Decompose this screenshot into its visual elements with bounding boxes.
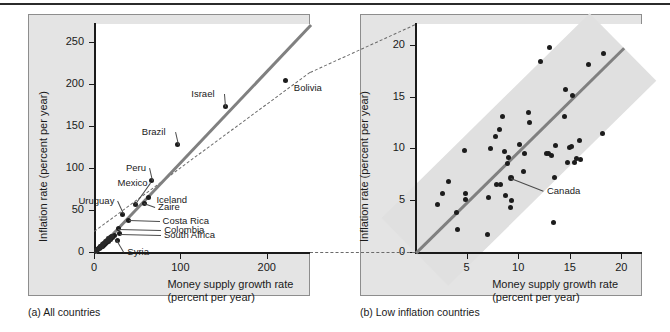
data-point xyxy=(486,195,491,200)
panel-b-x-axis-title: Money supply growth rate(percent per yea… xyxy=(492,278,618,304)
data-point xyxy=(577,138,582,143)
data-point xyxy=(553,143,558,148)
panel-a-y-axis xyxy=(94,23,96,253)
data-point xyxy=(517,142,522,147)
panel-a-y-tick-label: 200 xyxy=(54,77,84,89)
data-point-iceland xyxy=(146,195,151,200)
panel-a-y-tick-label: 250 xyxy=(54,35,84,47)
data-point-label: Canada xyxy=(547,185,580,196)
panel-a-x-tick xyxy=(94,254,95,259)
data-point-label: Uruguay xyxy=(79,195,115,206)
data-point xyxy=(454,210,459,215)
data-point-label: South Africa xyxy=(164,229,215,240)
panel-b-y-tick xyxy=(410,200,415,201)
panel-a-y-tick xyxy=(89,42,94,43)
panel-a-x-axis-title-line2: (percent per year) xyxy=(167,291,293,304)
figure-top-rule xyxy=(0,3,670,5)
panel-a-caption: (a) All countries xyxy=(28,306,100,318)
panel-a-y-tick-label: 0 xyxy=(54,245,84,257)
data-point-label: Brazil xyxy=(142,126,166,137)
data-point xyxy=(435,202,440,207)
data-point-label: Zaire xyxy=(158,201,180,212)
panel-b-y-tick xyxy=(410,45,415,46)
data-point xyxy=(455,227,460,232)
data-point xyxy=(485,232,490,237)
figure-root: (a) All countries (b) Low inflation coun… xyxy=(0,0,670,332)
panel-b-x-tick-label: 5 xyxy=(452,261,482,273)
panel-a-y-tick xyxy=(89,84,94,85)
data-point xyxy=(521,169,526,174)
data-point-label: Syria xyxy=(127,246,149,257)
panel-b-y-tick xyxy=(410,148,415,149)
data-point xyxy=(562,114,567,119)
panel-a-y-axis-title: Inflation rate (percent per year) xyxy=(37,91,50,242)
data-point xyxy=(586,62,591,67)
data-point xyxy=(563,87,568,92)
panel-a-y-tick-label: 150 xyxy=(54,119,84,131)
data-point xyxy=(527,120,532,125)
origin-cluster-point xyxy=(110,234,114,238)
data-point-label: Peru xyxy=(126,162,146,173)
panel-b-x-tick-label: 15 xyxy=(555,261,585,273)
panel-b-x-tick xyxy=(621,254,622,259)
data-point xyxy=(547,45,552,50)
panel-b-y-tick-label: 0 xyxy=(375,245,405,257)
panel-a-x-tick-label: 100 xyxy=(165,261,195,273)
panel-a-x-axis-title: Money supply growth rate(percent per yea… xyxy=(167,278,293,304)
panel-a-y-tick xyxy=(89,210,94,211)
connector-bottom-dashed xyxy=(310,252,415,253)
data-point-label: Bolivia xyxy=(294,82,322,93)
data-point-label: Israel xyxy=(191,88,214,99)
data-point xyxy=(500,114,505,119)
data-point xyxy=(462,148,467,153)
panel-a-y-tick-label: 100 xyxy=(54,161,84,173)
panel-b-x-axis-title-line1: Money supply growth rate xyxy=(492,278,618,291)
panel-b-x-tick-label: 20 xyxy=(606,261,636,273)
panel-b-y-tick-label: 15 xyxy=(375,90,405,102)
data-point xyxy=(549,153,554,158)
panel-a-x-axis-title-line1: Money supply growth rate xyxy=(167,278,293,291)
panel-a-x-tick xyxy=(180,254,181,259)
data-point xyxy=(488,146,493,151)
data-point xyxy=(552,175,557,180)
data-point-bolivia xyxy=(283,78,288,83)
panel-b-x-tick xyxy=(467,254,468,259)
data-point xyxy=(526,110,531,115)
data-point xyxy=(522,151,527,156)
panel-b-x-axis-title-line2: (percent per year) xyxy=(492,291,618,304)
data-point xyxy=(601,51,606,56)
data-point xyxy=(463,197,468,202)
data-point xyxy=(503,193,508,198)
panel-b-y-tick-label: 10 xyxy=(375,141,405,153)
data-point xyxy=(446,179,451,184)
data-point xyxy=(578,157,583,162)
panel-b-y-axis-title: Inflation rate (percent per year) xyxy=(358,91,371,242)
panel-b-y-tick xyxy=(410,97,415,98)
panel-a-x-tick-label: 0 xyxy=(79,261,109,273)
panel-b-x-tick xyxy=(570,254,571,259)
panel-a-x-tick-label: 200 xyxy=(252,261,282,273)
panel-b-y-axis xyxy=(415,23,417,253)
panel-b-caption: (b) Low inflation countries xyxy=(360,306,480,318)
panel-b-x-axis xyxy=(415,252,642,254)
panel-a-x-tick xyxy=(267,254,268,259)
panel-b-x-tick xyxy=(518,254,519,259)
panel-b-x-tick-label: 10 xyxy=(503,261,533,273)
panel-b-y-tick-label: 5 xyxy=(375,193,405,205)
data-point-label: Mexico xyxy=(117,177,147,188)
panel-a-y-tick xyxy=(89,126,94,127)
panel-a-y-tick xyxy=(89,168,94,169)
